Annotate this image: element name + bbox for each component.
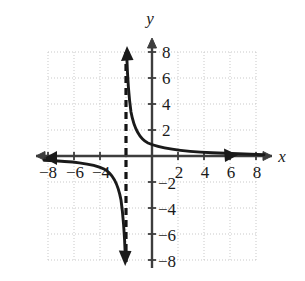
y-tick-label-4: 4 (162, 95, 171, 114)
x-tick-label--6: −6 (66, 163, 84, 182)
y-tick-label--2: −2 (158, 174, 176, 193)
graph-figure: −8 −6 −4 2 4 6 8 8 6 4 2 −2 −4 −6 −8 x y (0, 0, 305, 281)
x-tick-label-8: 8 (253, 163, 262, 182)
y-tick-label-8: 8 (162, 43, 171, 62)
x-tick-label-6: 6 (227, 163, 236, 182)
coordinate-plane-svg: −8 −6 −4 2 4 6 8 8 6 4 2 −2 −4 −6 −8 x y (0, 0, 305, 281)
y-tick-label--6: −6 (158, 226, 176, 245)
x-tick-label--4: −4 (92, 163, 111, 182)
y-tick-label--4: −4 (158, 200, 177, 219)
y-axis-label: y (144, 9, 154, 28)
x-tick-label-4: 4 (201, 163, 210, 182)
x-tick-label--8: −8 (39, 163, 57, 182)
y-tick-label-6: 6 (162, 69, 171, 88)
x-axis-label: x (277, 147, 286, 166)
y-tick-label-2: 2 (162, 121, 171, 140)
y-tick-label--8: −8 (158, 252, 176, 271)
